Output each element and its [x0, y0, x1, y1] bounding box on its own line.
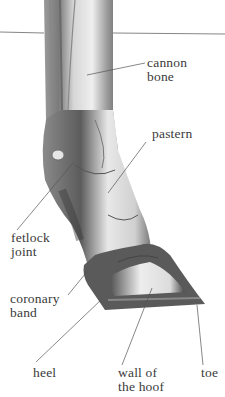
top-line-left [0, 32, 44, 33]
label-pastern: pastern [152, 127, 192, 141]
horse-leg-illustration [0, 0, 225, 397]
top-line-right [112, 33, 225, 34]
hoof-shape [84, 244, 206, 310]
leader-toe [197, 305, 203, 365]
label-fetlock-joint: fetlock joint [11, 231, 50, 259]
label-toe: toe [201, 366, 218, 380]
label-coronary-band: coronary band [10, 292, 60, 320]
label-heel: heel [33, 366, 56, 380]
label-cannon-bone: cannon bone [147, 56, 187, 84]
label-wall-of-hoof: wall of the hoof [118, 366, 164, 394]
